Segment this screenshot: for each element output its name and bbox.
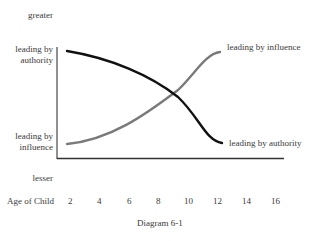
x-axis-label: Age of Child — [7, 196, 54, 207]
diagram-caption: Diagram 6-1 — [137, 218, 183, 229]
x-tick-14: 14 — [242, 196, 251, 207]
x-tick-16: 16 — [271, 196, 280, 207]
x-tick-12: 12 — [213, 196, 222, 207]
y-axis-top-label: greater — [28, 10, 53, 21]
lower-left-label-line2: influence — [20, 142, 53, 153]
x-tick-4: 4 — [97, 196, 102, 207]
x-tick-10: 10 — [184, 196, 193, 207]
curve-leading-by-authority — [67, 51, 222, 143]
lower-left-label-line1: leading by — [15, 131, 53, 142]
y-axis-bottom-label: lesser — [33, 173, 54, 184]
x-tick-6: 6 — [127, 196, 132, 207]
authority-end-label: leading by authority — [229, 138, 301, 149]
influence-end-label: leading by influence — [227, 42, 300, 53]
upper-left-label-line1: leading by — [15, 44, 53, 55]
curve-leading-by-influence — [67, 52, 220, 144]
upper-left-label-line2: authority — [21, 55, 54, 66]
x-tick-8: 8 — [156, 196, 161, 207]
x-tick-2: 2 — [68, 196, 73, 207]
